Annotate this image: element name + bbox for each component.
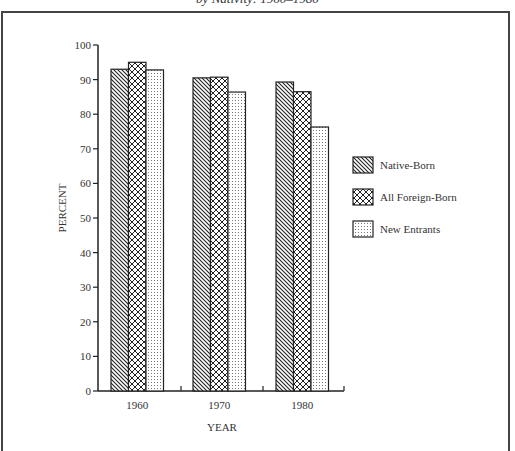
legend-item-native-born: Native-Born: [353, 157, 435, 173]
legend-item-new-entrants: New Entrants: [353, 221, 440, 237]
legend-item-all-foreign-born: All Foreign-Born: [353, 189, 457, 205]
bar-native-born-1980: [276, 82, 294, 391]
x-axis-title: YEAR: [207, 421, 238, 433]
x-tick-label: 1980: [291, 399, 314, 411]
legend-swatch: [353, 189, 373, 205]
y-tick-label: 90: [80, 74, 92, 86]
y-tick-label: 80: [80, 108, 92, 120]
legend-label: New Entrants: [380, 223, 440, 235]
legend-swatch: [353, 157, 373, 173]
y-tick-label: 10: [80, 350, 92, 362]
y-tick-label: 50: [80, 212, 92, 224]
legend: Native-BornAll Foreign-BornNew Entrants: [353, 157, 457, 237]
x-tick-label: 1960: [126, 399, 149, 411]
y-tick-label: 70: [80, 143, 92, 155]
bar-all-foreign-born-1980: [294, 92, 312, 391]
bar-all-foreign-born-1970: [211, 77, 229, 391]
y-tick-label: 0: [86, 385, 92, 397]
bar-new-entrants-1960: [146, 70, 164, 391]
legend-label: Native-Born: [380, 159, 435, 171]
y-tick-label: 20: [80, 316, 92, 328]
bar-native-born-1970: [193, 78, 211, 391]
bars: [111, 62, 329, 391]
y-tick-label: 100: [75, 39, 92, 51]
bar-new-entrants-1970: [228, 92, 246, 391]
y-tick-label: 60: [80, 177, 92, 189]
y-tick-label: 30: [80, 281, 92, 293]
bar-new-entrants-1980: [311, 127, 329, 391]
legend-label: All Foreign-Born: [380, 191, 457, 203]
x-tick-label: 1970: [208, 399, 231, 411]
bar-native-born-1960: [111, 69, 129, 391]
y-axis-title: PERCENT: [56, 183, 68, 232]
legend-swatch: [353, 221, 373, 237]
y-tick-label: 40: [80, 247, 92, 259]
bar-all-foreign-born-1960: [129, 62, 147, 391]
